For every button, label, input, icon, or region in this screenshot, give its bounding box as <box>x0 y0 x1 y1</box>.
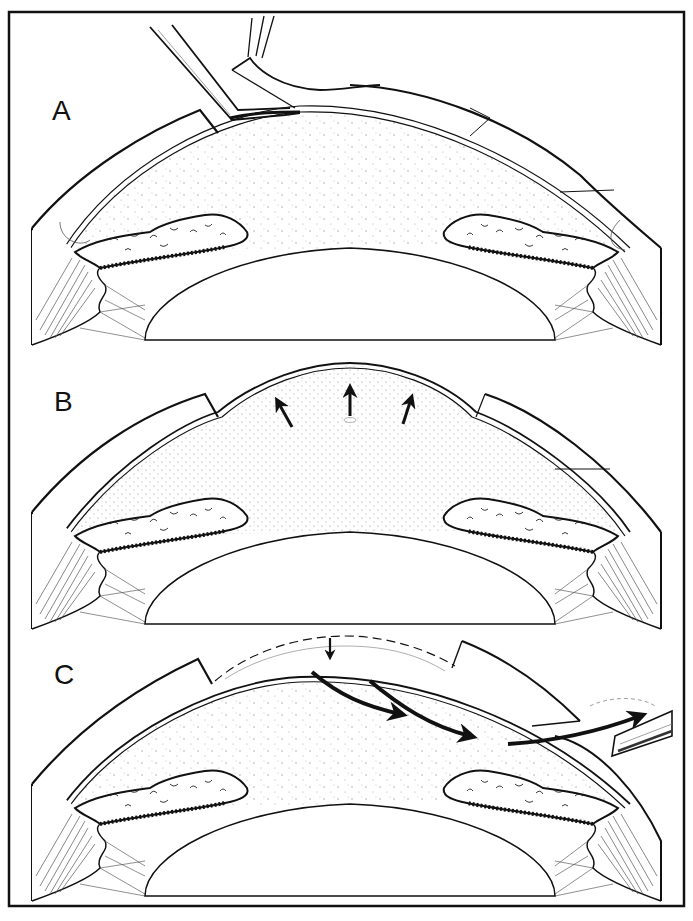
panel-c <box>32 636 672 901</box>
panel-label-c: C <box>54 661 74 689</box>
surgical-instrument-icon <box>150 16 380 120</box>
panel-label-b: B <box>54 388 73 416</box>
panel-label-a: A <box>52 97 71 125</box>
panel-a <box>32 16 661 345</box>
eye-cross-section-figure: A B C <box>0 0 693 921</box>
panel-b <box>32 363 661 629</box>
figure-canvas <box>0 0 693 921</box>
cannula-instrument-icon <box>612 711 672 756</box>
